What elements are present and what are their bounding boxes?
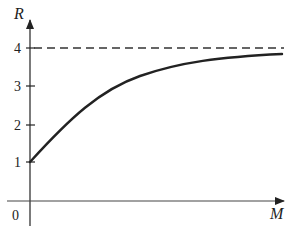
origin-label: 0 [12,208,19,223]
x-axis-label: M [269,205,285,222]
ytick-label-1: 1 [14,155,21,170]
ytick-label-2: 2 [14,118,21,133]
ytick-label-4: 4 [14,41,21,56]
ytick-label-3: 3 [14,79,21,94]
data-curve [30,54,282,162]
y-axis-label: R [13,5,24,22]
chart: 4 3 2 1 0 R M [0,0,287,229]
